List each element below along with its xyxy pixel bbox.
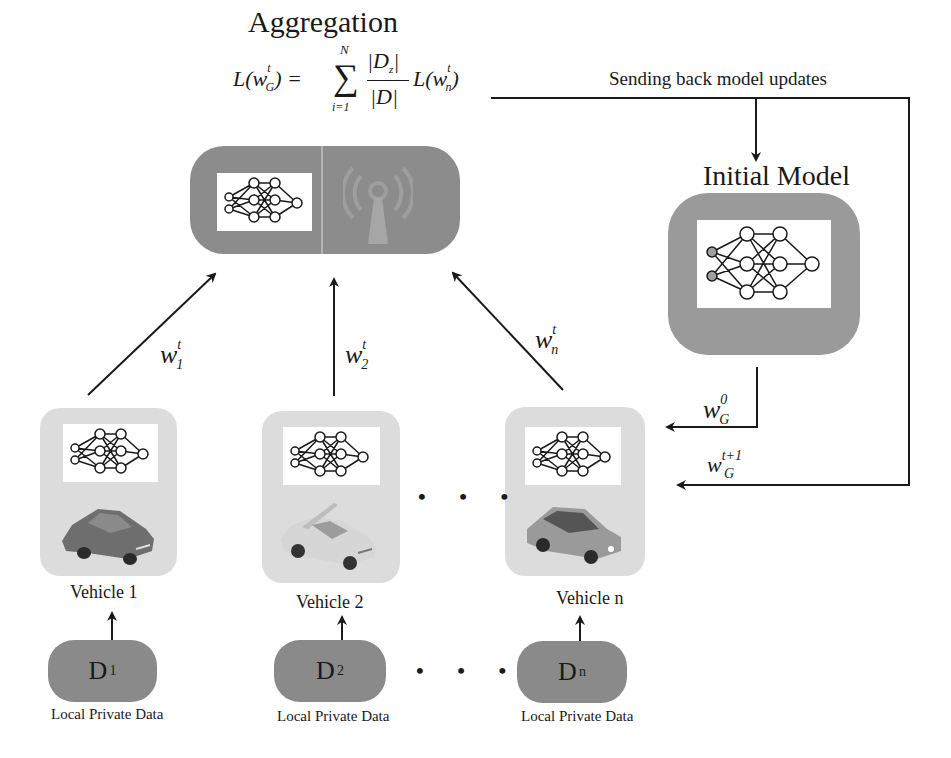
upload-weight-label-1: wt1 bbox=[160, 340, 183, 373]
car-icon bbox=[523, 501, 627, 567]
downlink-weight-label-update: wt+1G bbox=[707, 452, 734, 482]
vehicle-card-n bbox=[505, 407, 645, 576]
vehicle-label-1: Vehicle 1 bbox=[70, 582, 137, 603]
local-data-box-1: D1 bbox=[48, 640, 157, 702]
neural-network-panel bbox=[283, 427, 380, 485]
vehicle-label-2: Vehicle 2 bbox=[296, 592, 363, 613]
neural-network-panel bbox=[63, 424, 158, 482]
ellipsis-data: • • • bbox=[416, 658, 520, 684]
aggregation-server-box bbox=[190, 146, 460, 254]
neural-network-icon bbox=[697, 220, 831, 308]
neural-network-panel bbox=[697, 220, 831, 308]
vehicle-label-n: Vehicle n bbox=[556, 588, 623, 609]
local-data-box-2: D2 bbox=[274, 640, 386, 702]
vehicle-card-2 bbox=[262, 411, 400, 583]
local-data-caption-1: Local Private Data bbox=[51, 706, 163, 723]
local-data-caption-n: Local Private Data bbox=[521, 708, 633, 725]
local-data-box-n: Dn bbox=[517, 641, 627, 703]
vehicle-card-1 bbox=[40, 408, 177, 576]
aggregation-title: Aggregation bbox=[248, 5, 398, 39]
neural-network-panel bbox=[525, 427, 621, 485]
neural-network-icon bbox=[283, 427, 380, 485]
neural-network-panel bbox=[217, 173, 312, 231]
neural-network-icon bbox=[525, 427, 621, 485]
neural-network-icon bbox=[217, 173, 312, 231]
antenna-tower-icon bbox=[343, 158, 413, 248]
downlink-weight-label-initial: w0G bbox=[703, 395, 729, 428]
neural-network-icon bbox=[63, 424, 158, 482]
ellipsis-vehicles: • • • bbox=[418, 484, 522, 510]
initial-model-title: Initial Model bbox=[703, 160, 850, 192]
initial-model-box bbox=[668, 193, 860, 355]
local-data-caption-2: Local Private Data bbox=[277, 708, 389, 725]
feedback-label: Sending back model updates bbox=[609, 68, 827, 90]
car-icon bbox=[58, 503, 158, 565]
upload-weight-label-2: wt2 bbox=[345, 340, 368, 373]
car-icon bbox=[276, 499, 386, 571]
upload-weight-label-n: wtn bbox=[535, 325, 558, 358]
divider bbox=[321, 146, 323, 254]
